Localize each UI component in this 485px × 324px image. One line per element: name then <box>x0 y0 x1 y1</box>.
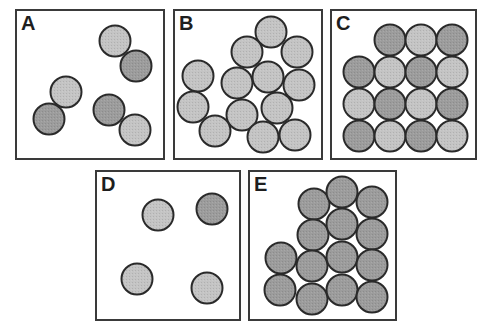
panel-b-label: B <box>179 12 193 34</box>
panel-d-label: D <box>101 173 115 195</box>
panel-a: A <box>15 9 165 160</box>
panel-c: C <box>330 9 477 160</box>
panel-e-label: E <box>254 173 267 195</box>
panel-a-label: A <box>21 12 35 34</box>
panel-c-label: C <box>336 12 350 34</box>
panel-e: E <box>248 170 397 321</box>
panel-b: B <box>173 9 323 160</box>
panel-d: D <box>95 170 241 321</box>
